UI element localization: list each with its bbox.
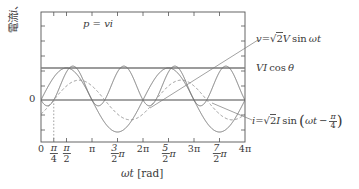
y-axis-ticks (41, 26, 45, 130)
annotation-power: p = vi (83, 18, 113, 29)
figure-root: 電流i、電圧v、電力p (0, 0, 359, 189)
current-leader-line (212, 103, 252, 120)
annotation-current: i=√2I sin (ωt − π 4 ) (252, 112, 343, 130)
voltage-leader-line (150, 40, 258, 108)
annotation-avg-power-text: VI (256, 62, 267, 73)
annotation-avg-power: VI cos θ (256, 62, 294, 73)
x-tick-label: 2π (137, 143, 149, 154)
x-axis-tick-labels: 0π4π2π32π2π52π3π72π4π (0, 143, 359, 165)
x-tick-label: 52π (161, 143, 175, 163)
x-tick-label: π4 (50, 143, 58, 163)
x-axis-label: ωt [rad] (121, 167, 163, 179)
annotation-voltage: v=√2V sin ωt (256, 33, 321, 44)
x-axis-label-unit: [rad] (137, 167, 163, 179)
x-tick-label: π2 (62, 143, 70, 163)
x-tick-label: 72π (212, 143, 226, 163)
x-tick-label: 3π (188, 143, 200, 154)
x-axis-ticks-top (54, 12, 220, 16)
x-axis-ticks-bottom (54, 138, 220, 142)
y-zero-tick-label: 0 (29, 93, 35, 104)
x-tick-label: 0 (38, 143, 44, 154)
x-tick-label: 4π (239, 143, 251, 154)
plot-frame (41, 12, 245, 142)
x-axis-label-symbol: ωt (121, 167, 134, 179)
x-tick-label: π (89, 143, 95, 154)
annotation-power-text: p = vi (83, 18, 113, 29)
x-tick-label: 32π (110, 143, 124, 163)
